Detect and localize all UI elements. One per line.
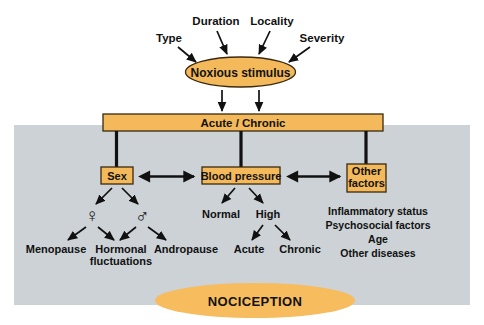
node-label-other-line1: Other bbox=[352, 165, 382, 177]
factor-label-locality: Locality bbox=[250, 15, 294, 27]
noxious-stimulus-label: Noxious stimulus bbox=[190, 66, 290, 80]
other-factor-item-psychosocial-factors: Psychosocial factors bbox=[325, 219, 430, 231]
node-label-blood-pressure: Blood pressure bbox=[201, 170, 282, 182]
female-symbol: ♀ bbox=[85, 205, 99, 226]
factor-label-severity: Severity bbox=[300, 32, 345, 44]
leaf-label-hormonal-line1: Hormonal bbox=[95, 243, 146, 255]
diagram-canvas: Type Duration Locality Severity Noxious … bbox=[0, 0, 484, 325]
arrow-duration-to-stimulus bbox=[217, 31, 227, 54]
arrow-type-to-stimulus bbox=[178, 47, 196, 62]
other-factor-item-other-diseases: Other diseases bbox=[340, 247, 415, 259]
leaf-label-andropause: Andropause bbox=[154, 243, 218, 255]
node-label-other-line2: factors bbox=[348, 177, 385, 189]
acute-chronic-label: Acute / Chronic bbox=[201, 117, 287, 129]
arrow-locality-to-stimulus bbox=[259, 31, 270, 54]
leaf-label-hormonal-line2: fluctuations bbox=[90, 255, 152, 267]
factor-label-duration: Duration bbox=[192, 15, 239, 27]
arrow-severity-to-stimulus bbox=[289, 47, 310, 62]
node-label-sex: Sex bbox=[107, 170, 127, 182]
flow-diagram-svg: Type Duration Locality Severity Noxious … bbox=[0, 0, 484, 325]
male-symbol: ♂ bbox=[135, 205, 149, 226]
nociception-label: NOCICEPTION bbox=[208, 294, 303, 309]
leaf-label-high: High bbox=[256, 208, 281, 220]
leaf-label-normal: Normal bbox=[202, 208, 240, 220]
factor-label-type: Type bbox=[156, 32, 182, 44]
other-factor-item-age: Age bbox=[368, 233, 388, 245]
other-factor-item-inflammatory-status: Inflammatory status bbox=[328, 205, 428, 217]
leaf-label-acute: Acute bbox=[234, 243, 265, 255]
leaf-label-chronic: Chronic bbox=[279, 243, 321, 255]
leaf-label-menopause: Menopause bbox=[26, 243, 87, 255]
